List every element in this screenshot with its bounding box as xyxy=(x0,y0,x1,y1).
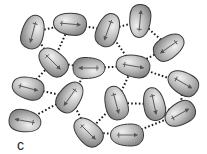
polar-molecule xyxy=(92,10,124,49)
polar-molecule xyxy=(10,73,47,103)
polar-molecule xyxy=(114,52,151,80)
polar-molecule xyxy=(7,107,42,134)
polar-molecule xyxy=(53,12,88,37)
polar-molecule xyxy=(111,124,144,146)
polar-molecule xyxy=(69,113,108,152)
polar-molecule xyxy=(73,58,105,79)
polar-molecule xyxy=(128,4,152,39)
polar-molecule xyxy=(164,65,203,100)
polar-molecule xyxy=(161,96,200,131)
molecule-diagram xyxy=(0,0,207,154)
polar-molecule xyxy=(140,86,167,123)
caption-fragment: c xyxy=(17,138,24,152)
polar-molecule xyxy=(52,77,89,117)
molecules xyxy=(7,4,202,152)
polar-molecule xyxy=(101,84,131,123)
polar-molecule xyxy=(18,13,48,52)
